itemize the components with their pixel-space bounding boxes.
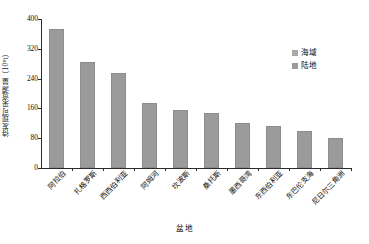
y-axis-line bbox=[41, 19, 42, 168]
bar bbox=[297, 131, 312, 168]
legend-label: 陆地 bbox=[301, 62, 318, 70]
x-axis-tick-label: 墨西哥湾 bbox=[227, 170, 253, 196]
y-axis-tick-mark bbox=[38, 79, 41, 80]
bar bbox=[49, 29, 64, 168]
x-axis-tick-label: 坎波斯 bbox=[170, 170, 191, 191]
bar bbox=[111, 73, 126, 168]
y-axis-tick-mark bbox=[38, 19, 41, 20]
bar bbox=[80, 62, 95, 168]
bar bbox=[235, 123, 250, 168]
y-axis-tick-mark bbox=[38, 138, 41, 139]
y-axis-tick-label: 240 bbox=[16, 75, 38, 82]
x-axis-tick-labels: 阿拉伯扎格罗斯西西伯利亚阿姆河坎波斯桑托斯墨西哥湾东西伯利亚东巴伦支海尼日尔三角… bbox=[41, 170, 361, 226]
y-axis-tick-label: 0 bbox=[16, 164, 38, 171]
x-axis-tick-label: 扎格罗斯 bbox=[72, 170, 98, 196]
x-axis-tick-label: 阿姆河 bbox=[139, 170, 160, 191]
x-axis-tick-label: 东巴伦支海 bbox=[284, 170, 315, 201]
y-axis-tick-mark bbox=[38, 168, 41, 169]
chart-legend: 海域陆地 bbox=[292, 47, 362, 73]
legend-swatch-icon bbox=[292, 50, 298, 56]
x-axis-tick-label: 桑托斯 bbox=[201, 170, 222, 191]
y-axis-tick-mark bbox=[38, 108, 41, 109]
bar-chart: 待发现可采资源量（10⁸t） 080160240320400 阿拉伯扎格罗斯西西… bbox=[0, 0, 369, 244]
bar bbox=[266, 126, 281, 168]
legend-item: 陆地 bbox=[292, 60, 362, 71]
bar bbox=[142, 103, 157, 168]
y-axis-tick-mark bbox=[38, 49, 41, 50]
y-axis-tick-label: 160 bbox=[16, 105, 38, 112]
y-axis-tick-label: 320 bbox=[16, 45, 38, 52]
x-axis-tick-label: 东西伯利亚 bbox=[253, 170, 284, 201]
x-axis-title: 盆地 bbox=[0, 222, 369, 233]
legend-swatch-icon bbox=[292, 63, 298, 69]
bar bbox=[204, 113, 219, 168]
legend-label: 海域 bbox=[301, 49, 318, 57]
x-axis-tick-label: 西西伯利亚 bbox=[98, 170, 129, 201]
legend-item: 海域 bbox=[292, 47, 362, 58]
y-axis-tick-label: 400 bbox=[16, 15, 38, 22]
y-axis-tick-labels: 080160240320400 bbox=[14, 0, 38, 244]
y-axis-tick-label: 80 bbox=[16, 134, 38, 141]
bar bbox=[173, 110, 188, 168]
bar bbox=[328, 138, 343, 168]
plot-area bbox=[41, 19, 351, 168]
x-axis-tick-label: 阿拉伯 bbox=[46, 170, 67, 191]
